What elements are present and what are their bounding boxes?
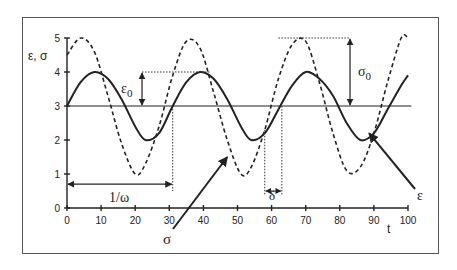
y-tick-label: 4 [54, 67, 60, 78]
inverse-omega-label: 1/ω [109, 190, 129, 205]
x-tick-label: 100 [400, 215, 417, 226]
y-tick-label: 2 [54, 135, 60, 146]
epsilon-arrow-label: ε [417, 188, 423, 203]
x-tick-label: 80 [334, 215, 346, 226]
y-tick-label: 5 [54, 33, 60, 44]
x-tick-label: 50 [232, 215, 244, 226]
x-tick-label: 10 [96, 215, 108, 226]
x-tick-label: 60 [266, 215, 278, 226]
x-tick-label: 0 [64, 215, 70, 226]
x-tick-label: 90 [368, 215, 380, 226]
x-tick-label: 30 [164, 215, 176, 226]
x-tick-label: 20 [130, 215, 142, 226]
y-tick-label: 1 [54, 169, 60, 180]
delta-label: δ [269, 188, 275, 203]
y-tick-label: 3 [54, 101, 60, 112]
sigma-arrow-label: σ [163, 231, 171, 247]
y-tick-label: 0 [54, 203, 60, 214]
x-tick-label: 70 [300, 215, 312, 226]
chart-figure: 0102030405060708090100012345 ε, σ t ε0 σ… [0, 0, 457, 270]
y-axis-label: ε, σ [28, 49, 48, 63]
x-tick-label: 40 [198, 215, 210, 226]
